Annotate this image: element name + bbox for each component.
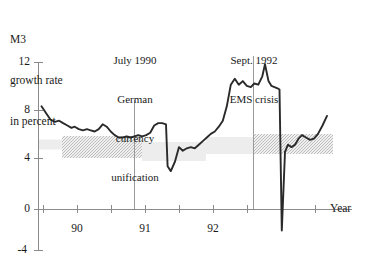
annotation-german-unification-line2: German bbox=[98, 93, 172, 106]
x-axis-title: Year bbox=[330, 202, 351, 216]
y-axis-label-line3: in percent bbox=[10, 115, 63, 129]
y-axis-label: M3 growth rate in percent bbox=[10, 6, 63, 155]
y-tick-label-4: 4 bbox=[8, 151, 30, 163]
target-corridor-bands bbox=[38, 134, 333, 161]
annotation-ems-crisis: Sept. 1992 EMS crisis bbox=[208, 28, 300, 132]
chart-figure: M3 growth rate in percent July 1990 Germ… bbox=[0, 0, 369, 264]
annotation-ems-crisis-line1: Sept. 1992 bbox=[208, 54, 300, 67]
target-band-5 bbox=[253, 134, 299, 154]
y-axis-label-line2: growth rate bbox=[10, 74, 63, 88]
y-axis-label-line1: M3 bbox=[10, 33, 63, 47]
annotation-ems-crisis-line2: EMS crisis bbox=[208, 93, 300, 106]
x-tick-label-91: 91 bbox=[130, 222, 160, 234]
y-tick-label-0: 0 bbox=[8, 202, 30, 214]
annotation-german-unification-line3: currency bbox=[98, 132, 172, 145]
y-tick-label-12: 12 bbox=[8, 55, 30, 67]
y-tick-label-8: 8 bbox=[8, 103, 30, 115]
annotation-german-unification-line4: unification bbox=[98, 171, 172, 184]
annotation-german-unification: July 1990 German currency unification bbox=[98, 28, 172, 210]
x-tick-label-90: 90 bbox=[62, 222, 92, 234]
annotation-german-unification-line1: July 1990 bbox=[98, 54, 172, 67]
x-tick-label-92: 92 bbox=[198, 222, 228, 234]
target-band-4 bbox=[206, 137, 253, 154]
y-tick-label-minus4: -4 bbox=[5, 243, 27, 255]
